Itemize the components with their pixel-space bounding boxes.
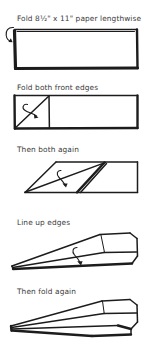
step-5: Then fold again: [0, 282, 160, 350]
step-4-figure: [0, 210, 160, 282]
step-2: Fold both front edges: [0, 78, 160, 138]
step-4: Line up edges: [0, 210, 160, 282]
step-3: Then both again: [0, 138, 160, 210]
step-5-figure: [0, 282, 160, 350]
instruction-sheet: Fold 8½" x 11" paper lengthwise Fold bot…: [0, 0, 160, 350]
step-3-figure: [0, 138, 160, 210]
step-1: Fold 8½" x 11" paper lengthwise: [0, 0, 160, 78]
step-1-figure: [0, 0, 160, 78]
step-2-figure: [0, 78, 160, 138]
